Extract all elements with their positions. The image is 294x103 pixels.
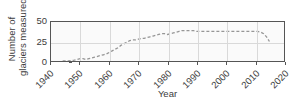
x-axis-tick-mark xyxy=(138,62,139,65)
x-axis-tick-mark xyxy=(168,62,169,65)
vertical-gridline xyxy=(110,22,111,61)
glacier-count-line xyxy=(63,31,270,61)
x-axis-tick-mark xyxy=(109,62,110,65)
x-axis-tick-mark xyxy=(256,62,257,65)
vertical-gridline xyxy=(80,22,81,61)
x-axis-tick-mark xyxy=(197,62,198,65)
vertical-gridline xyxy=(227,22,228,61)
data-series-line xyxy=(51,22,284,61)
y-axis-tick-mark xyxy=(69,62,72,63)
plot-area xyxy=(50,21,285,62)
y-axis-title-line1: Number of xyxy=(6,17,17,61)
y-axis-tick-label: 50 xyxy=(22,16,47,26)
vertical-gridline xyxy=(139,22,140,61)
y-axis-tick-label: 0 xyxy=(22,57,47,67)
x-axis-tick-mark xyxy=(79,62,80,65)
vertical-gridline xyxy=(198,22,199,61)
x-axis-tick-mark xyxy=(50,62,51,65)
x-axis-tick-mark xyxy=(285,62,286,65)
y-axis-tick-label: 25 xyxy=(22,37,47,47)
vertical-gridline xyxy=(257,22,258,61)
horizontal-gridline xyxy=(51,43,284,44)
glacier-count-line-chart: Number of glaciers measured 02550 Year 1… xyxy=(0,0,294,103)
vertical-gridline xyxy=(169,22,170,61)
x-axis-tick-mark xyxy=(226,62,227,65)
